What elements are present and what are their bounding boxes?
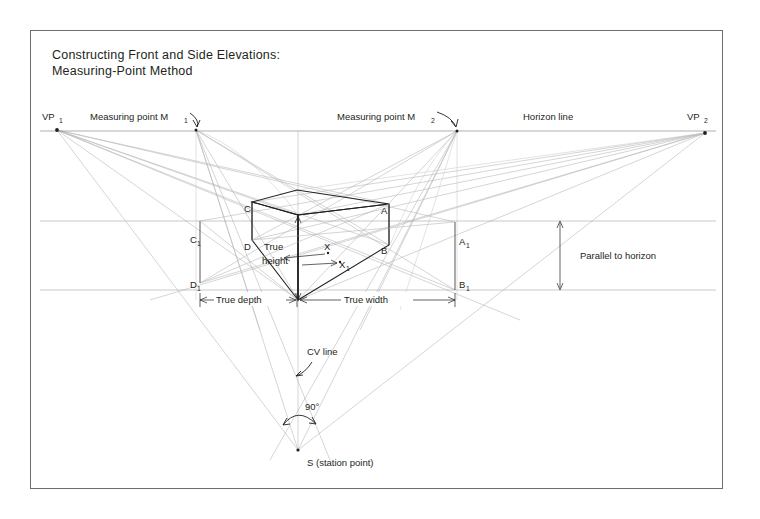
point-label-X1-main: X (339, 259, 346, 270)
vertex-label-D1-main: D (190, 279, 197, 290)
true-height-label-line2: height (262, 255, 288, 266)
angle-90-label: 90° (305, 401, 320, 412)
vertex-label-C1-sub: 1 (197, 240, 201, 247)
station-point-label: S (station point) (307, 457, 374, 468)
measuring-point-1-label-sub: 1 (184, 117, 188, 124)
point-label-X: X (324, 241, 331, 252)
parallel-to-horizon-label: Parallel to horizon (580, 250, 656, 261)
vp1-label-main: VP (42, 111, 55, 122)
point-label-X1-sub: 1 (346, 265, 350, 272)
vertex-label-A1-sub: 1 (466, 242, 470, 249)
m1-node (195, 129, 198, 132)
measuring-point-1-label-main: Measuring point M (90, 111, 168, 122)
vertex-label-B1-main: B (459, 279, 465, 290)
vp2-node (703, 131, 707, 135)
vp2-label-main: VP (687, 111, 700, 122)
vertex-label-D: D (244, 241, 251, 252)
vertex-label-B1-sub: 1 (466, 285, 470, 292)
true-depth-label: True depth (216, 294, 262, 305)
perspective-construction-diagram: Constructing Front and Side Elevations: … (0, 0, 760, 519)
vertex-label-A1-main: A (459, 236, 466, 247)
point-X-node (327, 252, 329, 254)
cv-line-label: CV line (307, 346, 338, 357)
true-depth-dimension: True depth (200, 292, 297, 307)
vertex-label-B: B (381, 245, 387, 256)
page-title-line2: Measuring-Point Method (52, 64, 193, 78)
station-point-node (296, 448, 299, 451)
figure-root: Constructing Front and Side Elevations: … (0, 0, 760, 519)
measuring-point-2-label-sub: 2 (431, 117, 435, 124)
vp1-label-sub: 1 (59, 117, 63, 124)
page-title-line1: Constructing Front and Side Elevations: (52, 48, 280, 62)
true-height-label-line1: True (264, 241, 283, 252)
vp2-label-sub: 2 (704, 117, 708, 124)
m2-node (456, 130, 459, 133)
measuring-point-2-label-main: Measuring point M (337, 111, 415, 122)
vertex-label-C1-main: C (190, 234, 197, 245)
horizon-line-label: Horizon line (523, 111, 573, 122)
vp1-node (55, 128, 59, 132)
vertex-label-C: C (244, 203, 251, 214)
vertex-label-D1-sub: 1 (197, 285, 201, 292)
vertex-label-A: A (381, 205, 388, 216)
true-width-label: True width (344, 294, 388, 305)
